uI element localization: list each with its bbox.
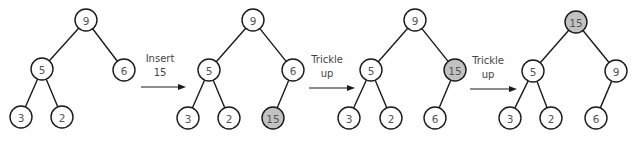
tree-edge xyxy=(375,80,387,108)
step-label-line-2: up xyxy=(482,69,495,80)
highlighted-node: 15 xyxy=(262,107,284,129)
tree-node: 2 xyxy=(51,106,73,128)
node-value: 9 xyxy=(613,66,620,78)
tree-edge xyxy=(422,29,448,62)
tree-node: 2 xyxy=(218,107,240,129)
node-value: 9 xyxy=(83,15,90,27)
trees-layer: 95632956321595153261559326 xyxy=(10,9,627,129)
tree-edge xyxy=(378,28,407,61)
arrow-head-icon xyxy=(347,85,355,91)
node-value: 15 xyxy=(448,65,461,77)
tree-node: 5 xyxy=(198,59,220,81)
highlighted-node: 15 xyxy=(565,11,587,33)
node-value: 6 xyxy=(432,113,439,125)
tree-node: 6 xyxy=(282,59,304,81)
arrow-head-icon xyxy=(509,86,517,92)
step-arrow: Trickleup xyxy=(309,54,355,91)
tree-edge xyxy=(25,79,37,107)
node-value: 2 xyxy=(226,113,233,125)
node-value: 3 xyxy=(185,113,192,125)
node-value: 15 xyxy=(569,17,582,29)
step-arrow: Trickleup xyxy=(470,55,517,92)
tree-edge xyxy=(537,81,547,107)
node-value: 5 xyxy=(39,64,46,76)
tree-node: 9 xyxy=(404,9,426,31)
node-value: 6 xyxy=(121,65,128,77)
node-value: 3 xyxy=(18,112,25,124)
tree-edge xyxy=(277,80,289,108)
node-value: 9 xyxy=(412,15,419,27)
tree-edge xyxy=(515,81,528,108)
tree-edge xyxy=(583,31,609,63)
tree-node: 9 xyxy=(242,9,264,31)
heap-tree: 95632 xyxy=(10,9,135,128)
tree-edge xyxy=(46,79,58,107)
tree-node: 9 xyxy=(605,60,627,82)
node-value: 5 xyxy=(368,65,375,77)
tree-edge xyxy=(93,29,118,61)
tree-node: 9 xyxy=(75,9,97,31)
highlighted-node: 15 xyxy=(444,59,466,81)
tree-edge xyxy=(216,28,245,61)
heap-tree: 9515326 xyxy=(338,9,466,129)
tree-node: 6 xyxy=(585,107,607,129)
node-value: 5 xyxy=(206,65,213,77)
node-value: 15 xyxy=(266,113,279,125)
step-label-line-2: up xyxy=(321,68,334,79)
node-value: 6 xyxy=(290,65,297,77)
tree-edge xyxy=(600,81,611,108)
arrow-head-icon xyxy=(178,84,186,90)
tree-node: 5 xyxy=(360,59,382,81)
step-arrow: Insert15 xyxy=(141,53,186,90)
node-value: 2 xyxy=(548,113,555,125)
tree-edge xyxy=(439,80,451,108)
tree-node: 3 xyxy=(499,107,521,129)
node-value: 6 xyxy=(593,113,600,125)
tree-edge xyxy=(260,29,286,62)
step-label-line-1: Insert xyxy=(146,53,175,64)
tree-node: 2 xyxy=(540,107,562,129)
tree-node: 6 xyxy=(424,107,446,129)
step-label-line-2: 15 xyxy=(154,67,167,78)
tree-node: 3 xyxy=(177,107,199,129)
node-value: 3 xyxy=(346,113,353,125)
step-label-line-1: Trickle xyxy=(471,55,504,66)
heap-tree: 1559326 xyxy=(499,11,627,129)
node-value: 5 xyxy=(530,66,537,78)
tree-edge xyxy=(540,30,568,62)
node-value: 2 xyxy=(59,112,66,124)
heap-insertion-diagram: 95632956321595153261559326 Insert15Trick… xyxy=(0,0,637,141)
heap-tree: 9563215 xyxy=(177,9,304,129)
tree-node: 3 xyxy=(10,106,32,128)
node-value: 9 xyxy=(250,15,257,27)
tree-node: 5 xyxy=(522,60,544,82)
tree-node: 5 xyxy=(31,58,53,80)
tree-edge xyxy=(354,80,367,108)
tree-edge xyxy=(49,28,78,61)
tree-edge xyxy=(192,80,204,108)
node-value: 3 xyxy=(507,113,514,125)
node-value: 2 xyxy=(388,113,395,125)
tree-node: 6 xyxy=(113,59,135,81)
tree-node: 2 xyxy=(380,107,402,129)
tree-edge xyxy=(213,80,225,108)
step-label-line-1: Trickle xyxy=(310,54,343,65)
tree-node: 3 xyxy=(338,107,360,129)
